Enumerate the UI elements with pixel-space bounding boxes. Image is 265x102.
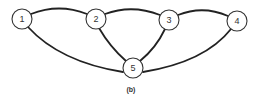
graph-diagram: 1 2 3 4 5 (b) — [0, 0, 265, 102]
edge-3-4 — [178, 10, 228, 16]
node-5: 5 — [123, 58, 143, 78]
node-label: 5 — [130, 63, 135, 73]
node-1: 1 — [12, 9, 32, 29]
edge-2-5 — [99, 28, 126, 61]
edge-3-5 — [140, 29, 165, 61]
node-label: 1 — [19, 14, 24, 24]
node-label: 4 — [234, 16, 239, 26]
edge-1-5 — [28, 27, 123, 72]
edge-2-3 — [105, 9, 160, 15]
edge-4-5 — [143, 29, 231, 72]
node-4: 4 — [227, 11, 247, 31]
node-3: 3 — [159, 10, 179, 30]
node-2: 2 — [86, 9, 106, 29]
node-label: 2 — [93, 14, 98, 24]
edge-1-2 — [31, 9, 87, 15]
node-label: 3 — [166, 15, 171, 25]
figure-caption: (b) — [127, 86, 136, 94]
